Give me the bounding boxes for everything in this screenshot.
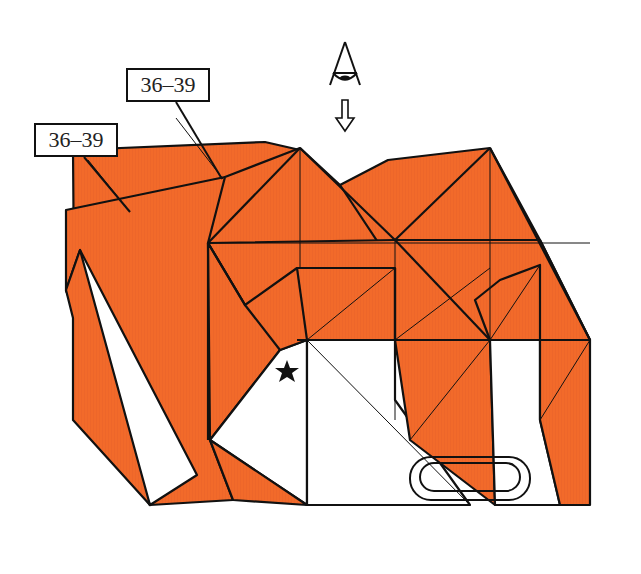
step-range-label-left: 36–39 [34,123,118,157]
step-range-label-upper: 36–39 [126,68,210,102]
down-hollow-arrow-icon [336,100,354,131]
paper-model [66,142,590,505]
view-from-above-eye-icon [330,42,360,85]
origami-diagram [0,0,641,574]
